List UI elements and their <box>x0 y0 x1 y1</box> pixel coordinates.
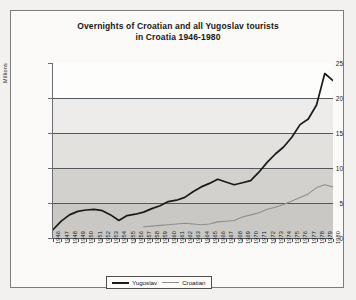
x-tick-1946 <box>53 239 54 242</box>
x-tick-label-1976: 1976 <box>302 231 308 244</box>
x-tick-label-1954: 1954 <box>121 231 127 244</box>
legend-swatch-icon-yugoslav <box>112 282 129 284</box>
x-tick-1979 <box>325 239 326 242</box>
x-tick-label-1969: 1969 <box>245 231 251 244</box>
x-tick-1964 <box>201 239 202 242</box>
x-tick-label-1978: 1978 <box>319 231 325 244</box>
x-tick-1980 <box>333 239 334 242</box>
y-tick-5 <box>48 203 53 204</box>
x-tick-1957 <box>144 239 145 242</box>
x-tick-1958 <box>152 239 153 242</box>
chart-title-line-2: in Croatia 1946-1980 <box>11 32 345 43</box>
x-tick-label-1955: 1955 <box>130 231 136 244</box>
x-tick-1960 <box>168 239 169 242</box>
legend-entry-yugoslav: Yugoslav <box>112 279 157 286</box>
y-tick-label-25: 25 <box>309 60 343 67</box>
legend-label-yugoslav: Yugoslav <box>132 279 157 286</box>
chart-legend: Yugoslav Croatian <box>106 276 212 289</box>
legend-label-croatian: Croatian <box>182 279 205 286</box>
x-tick-1953 <box>111 239 112 242</box>
x-tick-label-1953: 1953 <box>113 231 119 244</box>
x-tick-1952 <box>102 239 103 242</box>
x-tick-1962 <box>185 239 186 242</box>
x-tick-1976 <box>300 239 301 242</box>
scanned-page-background: Overnights of Croatian and all Yugoslav … <box>0 0 356 300</box>
x-tick-label-1957: 1957 <box>146 231 152 244</box>
legend-swatch-icon-croatian <box>162 282 179 283</box>
y-tick-25 <box>48 63 53 64</box>
x-tick-label-1949: 1949 <box>80 231 86 244</box>
chart-title: Overnights of Croatian and all Yugoslav … <box>11 21 345 43</box>
x-tick-label-1952: 1952 <box>105 231 111 244</box>
x-tick-1961 <box>177 239 178 242</box>
y-tick-label-20: 20 <box>309 95 343 102</box>
x-tick-label-1965: 1965 <box>212 231 218 244</box>
x-tick-label-1960: 1960 <box>171 231 177 244</box>
x-tick-1954 <box>119 239 120 242</box>
x-tick-1959 <box>160 239 161 242</box>
x-tick-1974 <box>284 239 285 242</box>
x-tick-1966 <box>218 239 219 242</box>
x-tick-label-1958: 1958 <box>154 231 160 244</box>
x-tick-1965 <box>209 239 210 242</box>
x-tick-1975 <box>292 239 293 242</box>
x-tick-label-1975: 1975 <box>294 231 300 244</box>
x-tick-label-1950: 1950 <box>88 231 94 244</box>
legend-entry-croatian: Croatian <box>162 279 205 286</box>
chart-figure-frame: Overnights of Croatian and all Yugoslav … <box>10 10 344 288</box>
x-tick-label-1970: 1970 <box>253 231 259 244</box>
plot-area <box>53 63 333 238</box>
series-canvas <box>53 63 333 238</box>
x-tick-1973 <box>275 239 276 242</box>
x-tick-label-1956: 1956 <box>138 231 144 244</box>
x-tick-label-1946: 1946 <box>55 231 61 244</box>
x-tick-label-1971: 1971 <box>261 231 267 244</box>
series-line-croatian <box>144 185 333 227</box>
x-tick-label-1963: 1963 <box>195 231 201 244</box>
x-tick-1955 <box>127 239 128 242</box>
x-tick-1971 <box>259 239 260 242</box>
x-tick-label-1947: 1947 <box>64 231 70 244</box>
x-tick-1967 <box>226 239 227 242</box>
x-tick-1949 <box>78 239 79 242</box>
x-tick-1956 <box>135 239 136 242</box>
x-tick-1972 <box>267 239 268 242</box>
x-tick-label-1967: 1967 <box>228 231 234 244</box>
x-tick-label-1968: 1968 <box>237 231 243 244</box>
x-tick-label-1979: 1979 <box>327 231 333 244</box>
y-tick-15 <box>48 133 53 134</box>
series-line-yugoslav <box>53 74 333 230</box>
y-tick-label-10: 10 <box>309 165 343 172</box>
x-tick-label-1980: 1980 <box>335 231 341 244</box>
y-tick-20 <box>48 98 53 99</box>
x-tick-1948 <box>69 239 70 242</box>
x-tick-1969 <box>242 239 243 242</box>
x-tick-label-1959: 1959 <box>162 231 168 244</box>
x-tick-1978 <box>317 239 318 242</box>
x-tick-label-1977: 1977 <box>311 231 317 244</box>
x-tick-label-1964: 1964 <box>204 231 210 244</box>
chart-title-line-1: Overnights of Croatian and all Yugoslav … <box>11 21 345 32</box>
x-tick-label-1973: 1973 <box>278 231 284 244</box>
y-tick-10 <box>48 168 53 169</box>
x-tick-1951 <box>94 239 95 242</box>
x-tick-label-1972: 1972 <box>270 231 276 244</box>
x-tick-label-1974: 1974 <box>286 231 292 244</box>
y-tick-label-15: 15 <box>309 130 343 137</box>
x-tick-1947 <box>61 239 62 242</box>
x-tick-1950 <box>86 239 87 242</box>
x-tick-1977 <box>308 239 309 242</box>
y-tick-label-5: 5 <box>309 200 343 207</box>
x-tick-1968 <box>234 239 235 242</box>
x-tick-label-1966: 1966 <box>220 231 226 244</box>
x-tick-1970 <box>251 239 252 242</box>
y-axis-title: Millions <box>2 63 8 83</box>
y-axis-line <box>52 63 53 239</box>
x-tick-label-1961: 1961 <box>179 231 185 244</box>
x-tick-label-1951: 1951 <box>97 231 103 244</box>
x-tick-label-1948: 1948 <box>72 231 78 244</box>
x-tick-1963 <box>193 239 194 242</box>
x-tick-label-1962: 1962 <box>187 231 193 244</box>
